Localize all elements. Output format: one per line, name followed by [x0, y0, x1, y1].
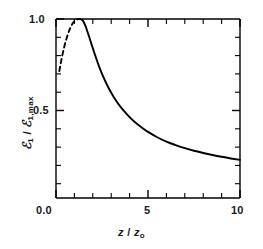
y-axis-title-denominator: ℰ	[20, 121, 34, 128]
y-axis-title-sep: /	[21, 128, 33, 138]
y-tick-label-1.0: 1.0	[29, 13, 45, 25]
x-tick-label-5: 5	[144, 204, 150, 216]
x-axis-title: z / zo	[118, 226, 145, 240]
x-axis-title-sep: /	[124, 226, 134, 238]
x-axis-title-subscript: o	[140, 231, 145, 240]
x-tick-label-10: 10	[231, 204, 244, 216]
series-extrapolated-rise	[59, 19, 80, 71]
y-axis-title-numerator: ℰ	[20, 143, 34, 150]
y-axis-title-denominator-subscript: 1,max	[26, 96, 35, 120]
data-curves	[59, 19, 240, 160]
y-tick-label-0.5: 0.5	[33, 104, 49, 116]
y-axis-title: ℰ1 / ℰ1,max	[20, 96, 35, 150]
axes-frame	[56, 19, 240, 198]
x-tick-label-0: 0.0	[36, 204, 52, 216]
figure-canvas: 0.0 5 10 1.0 0.5 z / zo ℰ1 / ℰ1,max	[0, 0, 263, 249]
y-minor-ticks	[56, 37, 240, 183]
y-axis-title-numerator-subscript: 1	[26, 138, 35, 143]
x-major-ticks	[56, 19, 240, 198]
y-major-ticks	[56, 19, 240, 111]
series-decay	[80, 19, 240, 160]
x-minor-ticks	[74, 19, 221, 198]
